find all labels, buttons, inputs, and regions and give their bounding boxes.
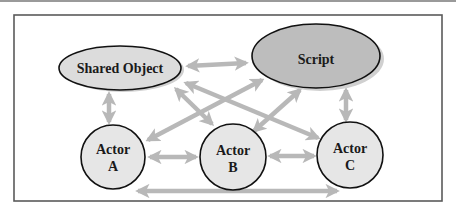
actor-communication-diagram: Shared Object Script Actor A Actor B Act…	[0, 0, 456, 219]
shared-object-label: Shared Object	[77, 61, 164, 76]
node-actor-b: Actor B	[200, 124, 266, 190]
actor-c-label-line1: Actor	[333, 141, 367, 156]
actor-a-label-line1: Actor	[96, 142, 130, 157]
script-label: Script	[298, 52, 335, 67]
actor-b-label-line1: Actor	[216, 143, 250, 158]
actor-a-circle	[81, 125, 145, 189]
actor-b-label-line2: B	[228, 160, 237, 175]
edge-shared-object-script	[188, 63, 246, 66]
actor-c-label-line2: C	[345, 158, 355, 173]
actor-a-label-line2: A	[108, 159, 119, 174]
node-actor-a: Actor A	[81, 125, 145, 189]
node-actor-c: Actor C	[317, 122, 383, 188]
